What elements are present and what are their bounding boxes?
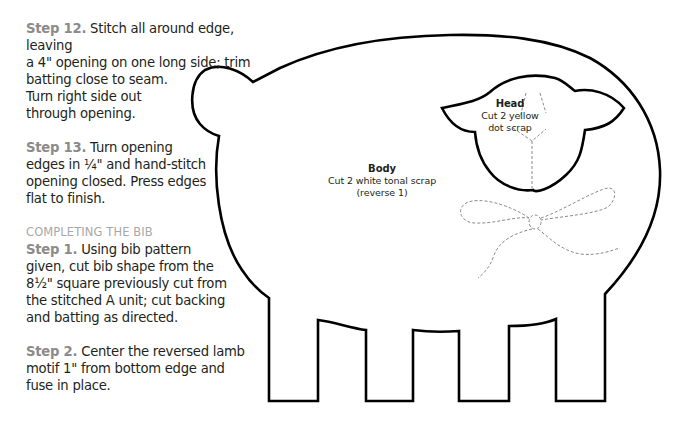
- body-label-line2: (reverse 1): [322, 187, 442, 199]
- body-label-title: Body: [322, 163, 442, 175]
- head-label-title: Head: [470, 98, 550, 110]
- head-label-line2: dot scrap: [470, 122, 550, 134]
- body-label-line1: Cut 2 white tonal scrap: [322, 175, 442, 187]
- instructions-column: Step 12. Stitch all around edge, leaving…: [26, 20, 256, 411]
- body-label: Body Cut 2 white tonal scrap (reverse 1): [322, 163, 442, 199]
- bib-step-2-paragraph: Step 2. Center the reversed lamb motif 1…: [26, 343, 256, 394]
- head-label: Head Cut 2 yellow dot scrap: [470, 98, 550, 134]
- step-12-paragraph: Step 12. Stitch all around edge, leaving…: [26, 20, 256, 122]
- bib-step-1-label: Step 1.: [26, 242, 77, 257]
- head-label-line1: Cut 2 yellow: [470, 110, 550, 122]
- step-13-label: Step 13.: [26, 140, 86, 155]
- bib-step-2-label: Step 2.: [26, 344, 77, 359]
- section-heading: COMPLETING THE BIB: [26, 224, 256, 241]
- step-12-label: Step 12.: [26, 21, 86, 36]
- step-13-paragraph: Step 13. Turn opening edges in ¼" and ha…: [26, 139, 256, 207]
- bow-stitch-lines: [461, 188, 620, 278]
- bib-step-1-paragraph: Step 1. Using bib pattern given, cut bib…: [26, 241, 256, 326]
